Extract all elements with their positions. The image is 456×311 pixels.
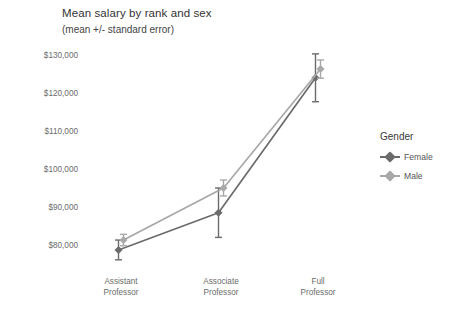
series-male bbox=[120, 60, 325, 246]
legend-item-male[interactable]: Male bbox=[380, 168, 456, 183]
legend-item-female[interactable]: Female bbox=[380, 149, 456, 164]
series-line bbox=[119, 78, 316, 250]
legend-title: Gender bbox=[380, 131, 456, 142]
legend-items: FemaleMale bbox=[380, 149, 456, 183]
chart-container: Mean salary by rank and sex (mean +/- st… bbox=[0, 0, 456, 311]
x-tick-label-line: Professor bbox=[300, 288, 335, 299]
legend-marker-icon bbox=[380, 150, 400, 163]
legend-diamond-icon bbox=[384, 151, 395, 162]
x-tick-label: AssistantProfessor bbox=[103, 277, 138, 298]
data-point-marker bbox=[115, 246, 123, 254]
legend-label: Male bbox=[404, 171, 423, 181]
legend: Gender FemaleMale bbox=[380, 131, 456, 187]
series-line bbox=[124, 69, 321, 240]
x-tick-label-line: Associate bbox=[203, 277, 239, 288]
x-tick-label-line: Professor bbox=[203, 288, 239, 299]
data-point-marker bbox=[120, 236, 128, 244]
legend-marker-icon bbox=[380, 169, 400, 182]
legend-label: Female bbox=[404, 152, 433, 162]
x-tick-label: FullProfessor bbox=[300, 277, 335, 298]
x-tick-label-line: Professor bbox=[103, 288, 138, 299]
x-tick-label: AssociateProfessor bbox=[203, 277, 239, 298]
legend-diamond-icon bbox=[384, 170, 395, 181]
x-tick-label-line: Full bbox=[300, 277, 335, 288]
x-tick-label-line: Assistant bbox=[103, 277, 138, 288]
